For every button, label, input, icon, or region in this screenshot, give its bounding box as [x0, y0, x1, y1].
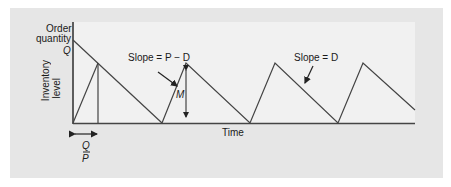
- slope-pd-label: Slope = P − D: [128, 52, 190, 63]
- q-label: Q: [63, 45, 71, 56]
- qp-denominator: P: [82, 153, 89, 164]
- first-production-line: [73, 63, 98, 123]
- slope-pd-pointer: [158, 72, 177, 86]
- slope-d-pointer: [305, 66, 313, 83]
- time-label: Time: [222, 127, 244, 138]
- qp-numerator: Q: [82, 140, 90, 151]
- slope-d-label: Slope = D: [294, 52, 338, 63]
- sawtooth-line: [162, 63, 415, 123]
- quantity-label: quantity: [36, 33, 71, 44]
- level-label: level: [51, 78, 63, 99]
- max-label: M: [176, 89, 184, 100]
